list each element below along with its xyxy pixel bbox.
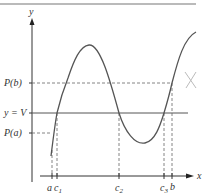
x-mark-icon <box>185 72 196 88</box>
y-axis-label: y <box>28 6 34 17</box>
x-axis-arrow-icon <box>186 174 194 179</box>
y-axis-arrow-icon <box>30 18 35 25</box>
c2-label: c2 <box>115 182 123 193</box>
b-label: b <box>170 181 175 192</box>
function-curve <box>51 32 196 156</box>
v-label: y = V <box>3 107 28 118</box>
pb-label: P(b) <box>3 77 22 89</box>
pa-label: P(a) <box>3 127 22 139</box>
c3-label: c3 <box>160 182 168 193</box>
ivt-diagram: y x P(b) y = V P(a) a c1 c2 c3 b <box>0 0 205 193</box>
c1-label: c1 <box>54 182 62 193</box>
x-axis-label: x <box>196 170 202 181</box>
a-label: a <box>47 182 52 193</box>
